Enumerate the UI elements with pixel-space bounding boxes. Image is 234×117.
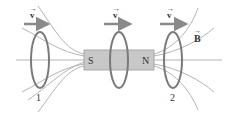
magnet-rings-diagram: S N v → v → v → B → 1 2: [0, 0, 234, 117]
bar-magnet: S N: [84, 50, 154, 70]
vector-arrow-glyph: →: [30, 5, 37, 13]
north-pole-label: N: [142, 55, 149, 66]
ring-label-1: 1: [36, 92, 41, 103]
vector-arrow-glyph: →: [113, 5, 120, 13]
vector-arrow-glyph: →: [194, 27, 201, 35]
vector-arrow-glyph: →: [167, 5, 174, 13]
south-pole-label: S: [88, 55, 94, 66]
field-lines-left: [16, 6, 84, 112]
ring-label-2: 2: [170, 92, 175, 103]
